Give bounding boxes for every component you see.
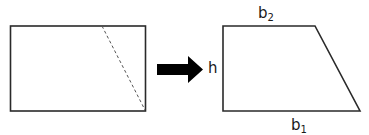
diagram-svg [0, 0, 369, 135]
label-top-base: b2 [258, 6, 274, 23]
result-trapezoid [223, 26, 360, 111]
source-rectangle [11, 26, 146, 111]
right-arrow-icon [157, 56, 203, 83]
label-top-base-sub: 2 [268, 12, 274, 23]
label-bottom-base-sub: 1 [301, 124, 307, 135]
diagram-canvas: b2 h b1 [0, 0, 369, 135]
label-height: h [208, 61, 218, 76]
label-top-base-main: b [258, 4, 268, 22]
label-bottom-base: b1 [291, 118, 307, 135]
label-bottom-base-main: b [291, 116, 301, 134]
dashed-cut-line [102, 26, 145, 110]
